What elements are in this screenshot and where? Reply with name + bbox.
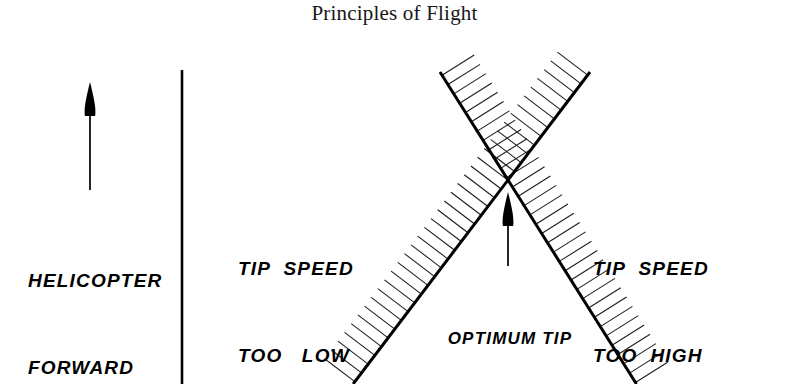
hatch-line <box>477 111 509 131</box>
hatch-line <box>371 297 401 320</box>
hatch-line <box>559 241 591 261</box>
hatch-line <box>358 315 388 338</box>
hatch-line <box>537 78 567 101</box>
hatch-line <box>458 184 488 207</box>
hatch-line <box>431 219 461 242</box>
label-line: TIP SPEED <box>238 254 354 283</box>
hatch-line <box>518 176 550 196</box>
hatch-line <box>478 157 508 180</box>
hatch-line <box>424 227 454 250</box>
optimum-tip-speed-arrow-icon <box>503 192 514 266</box>
hatch-line <box>464 175 494 198</box>
helicopter-forward-speed-label: HELICOPTER FORWARD SPEED <box>28 208 162 384</box>
hatch-line <box>471 166 501 189</box>
hatch-line <box>483 120 515 140</box>
hatch-line <box>504 122 534 145</box>
hatch-line <box>542 213 574 233</box>
label-line: TOO LOW <box>238 341 354 370</box>
hatch-line <box>471 102 503 122</box>
hatch-line <box>531 87 561 110</box>
hatch-line <box>442 55 474 75</box>
hatch-line <box>551 61 581 84</box>
figure-canvas: Principles of Flight HELICOPTER FORWARD … <box>0 0 789 384</box>
tip-speed-too-low-label: TIP SPEED TOO LOW <box>238 196 354 384</box>
hatch-line <box>530 195 562 215</box>
hatch-line <box>454 74 486 94</box>
label-line: FORWARD <box>28 353 162 382</box>
hatch-line <box>524 185 556 205</box>
label-line: TIP SPEED <box>593 254 709 283</box>
hatch-line <box>536 204 568 224</box>
hatch-line <box>365 306 395 329</box>
hatch-line <box>448 64 480 84</box>
hatch-line <box>384 280 414 303</box>
hatch-line <box>517 105 547 128</box>
hatch-line <box>557 52 587 75</box>
hatch-line <box>460 83 492 103</box>
hatch-line <box>418 236 448 259</box>
hatch-line <box>444 201 474 224</box>
hatch-line <box>451 192 481 215</box>
hatch-line <box>438 210 468 233</box>
hatch-line <box>553 232 585 252</box>
hatch-line <box>351 324 381 347</box>
label-line: HELICOPTER <box>28 266 162 295</box>
hatch-line <box>524 96 554 119</box>
hatch-line <box>465 92 497 112</box>
label-line: OPTIMUM TIP <box>415 326 605 352</box>
label-line: TOO HIGH <box>593 341 709 370</box>
tip-speed-too-high-label: TIP SPEED TOO HIGH <box>593 196 709 384</box>
hatch-line <box>495 139 527 159</box>
hatch-line <box>544 70 574 93</box>
helicopter-forward-speed-arrow-icon <box>85 82 96 190</box>
hatch-line <box>548 223 580 243</box>
hatch-line <box>378 289 408 312</box>
optimum-tip-speed-label: OPTIMUM TIP SPEED <box>415 274 605 384</box>
hatch-line <box>411 245 441 268</box>
hatch-line <box>489 129 521 149</box>
